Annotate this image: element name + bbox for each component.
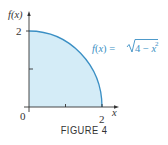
x-axis-label: x: [111, 107, 117, 118]
y-axis-label: f(x): [8, 9, 23, 21]
y-axis-arrow-icon: [27, 11, 30, 16]
origin-label: 0: [20, 110, 26, 122]
figure-caption: FIGURE 4: [13, 124, 156, 136]
function-label: f(x) =: [92, 43, 115, 55]
function-radicand: 4 − x: [135, 43, 156, 54]
function-exponent: 2: [155, 40, 159, 48]
y-tick-label-2: 2: [16, 25, 22, 37]
